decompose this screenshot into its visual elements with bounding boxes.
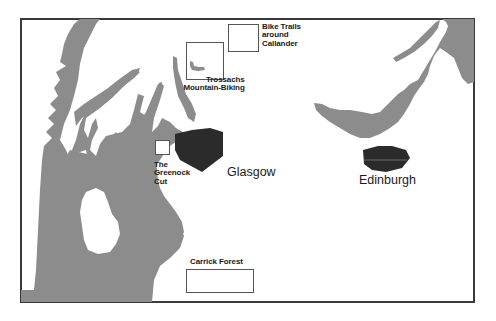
greenock-cut-label-line-3: Cut	[154, 178, 190, 186]
glasgow-label-text: Glasgow	[227, 165, 276, 179]
carrick-forest-label: Carrick Forest	[190, 258, 243, 266]
greenock-cut-area-box[interactable]	[155, 140, 170, 155]
glasgow-label: Glasgow	[227, 166, 276, 179]
callander-area-box[interactable]	[228, 24, 259, 52]
edinburgh-label: Edinburgh	[359, 174, 416, 187]
callander-label: Bike Trails around Callander	[262, 23, 301, 48]
carrick-forest-label-text: Carrick Forest	[190, 257, 243, 266]
trossachs-label-line-2: Mountain-Biking	[181, 84, 245, 92]
edinburgh-urban	[363, 146, 410, 172]
greenock-cut-label: The Greenock Cut	[154, 161, 190, 186]
trossachs-label: Trossachs Mountain-Biking	[206, 76, 245, 93]
carrick-forest-area-box[interactable]	[186, 269, 254, 293]
edinburgh-label-text: Edinburgh	[359, 173, 416, 187]
firth-of-forth-water	[314, 19, 474, 138]
callander-label-line-3: Callander	[262, 40, 301, 48]
